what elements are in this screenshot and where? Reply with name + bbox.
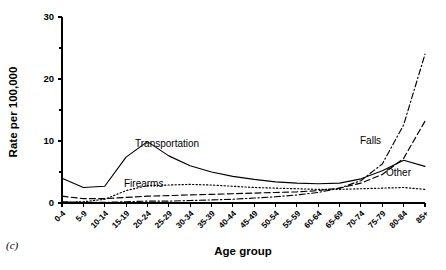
- x-tick-label: 65-69: [324, 209, 345, 230]
- x-tick-label: 5-9: [74, 209, 89, 224]
- line-chart: 0102030 0-45-910-1415-1920-2425-2930-343…: [0, 0, 446, 270]
- panel-letter: (c): [6, 239, 19, 252]
- x-tick-label: 45-49: [238, 209, 259, 230]
- x-tick-label: 85+: [414, 209, 430, 225]
- series-line-transportation: [62, 142, 425, 188]
- x-axis-title: Age group: [214, 245, 272, 257]
- x-tick-label: 80-84: [388, 209, 409, 230]
- x-tick-label: 60-64: [302, 209, 323, 230]
- series-line-falls: [62, 54, 425, 202]
- chart-series: [62, 54, 425, 202]
- x-tick-label: 75-79: [367, 209, 388, 230]
- series-label-firearms: Firearms: [124, 178, 163, 189]
- x-axis-tick-labels: 0-45-910-1415-1920-2425-2930-3435-3940-4…: [53, 209, 431, 230]
- x-tick-label: 0-4: [53, 209, 68, 224]
- x-tick-label: 40-44: [217, 209, 238, 230]
- x-tick-label: 30-34: [174, 209, 195, 230]
- series-line-other: [62, 121, 425, 199]
- series-label-other: Other: [386, 167, 412, 178]
- y-axis-tick-labels: 0102030: [43, 11, 54, 208]
- x-tick-label: 15-19: [110, 209, 131, 230]
- figure-panel: 0102030 0-45-910-1415-1920-2425-2930-343…: [0, 0, 446, 270]
- y-axis-title: Rate per 100,000: [7, 67, 19, 158]
- x-tick-label: 35-39: [196, 209, 217, 230]
- x-tick-label: 50-54: [260, 209, 281, 230]
- chart-axes: [58, 17, 426, 207]
- x-tick-label: 70-74: [345, 209, 366, 230]
- x-tick-label: 20-24: [132, 209, 153, 230]
- x-tick-label: 55-59: [281, 209, 302, 230]
- y-tick-label: 20: [43, 73, 54, 84]
- x-tick-label: 10-14: [89, 209, 110, 230]
- series-line-firearms: [62, 184, 425, 202]
- y-tick-label: 0: [49, 197, 54, 208]
- series-label-falls: Falls: [360, 135, 381, 146]
- series-label-transportation: Transportation: [135, 138, 199, 149]
- y-tick-label: 10: [43, 135, 54, 146]
- y-tick-label: 30: [43, 11, 54, 22]
- x-tick-label: 25-29: [153, 209, 174, 230]
